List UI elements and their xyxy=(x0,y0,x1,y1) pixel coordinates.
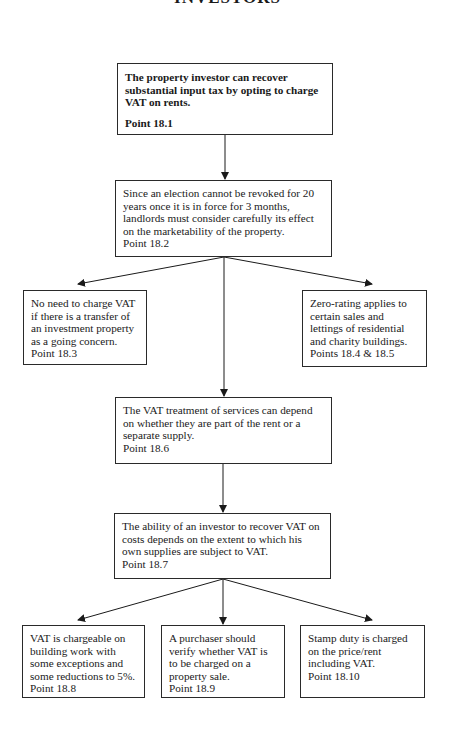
node-n1: The property investor can recover substa… xyxy=(117,63,333,135)
arrow-n2-n4 xyxy=(224,257,372,284)
node-text: No need to charge VAT if there is a tran… xyxy=(31,297,139,347)
node-ref: Point 18.9 xyxy=(169,682,277,695)
node-n4: Zero-rating applies to certain sales and… xyxy=(302,290,427,367)
node-ref: Point 18.10 xyxy=(308,670,417,683)
node-n3: No need to charge VAT if there is a tran… xyxy=(23,290,147,365)
node-n8: A purchaser should verify whether VAT is… xyxy=(161,625,285,698)
arrow-n6-n9 xyxy=(223,579,372,620)
node-n7: VAT is chargeable on building work with … xyxy=(22,625,145,698)
node-ref: Point 18.3 xyxy=(31,347,139,360)
node-ref: Point 18.8 xyxy=(30,682,137,695)
node-text: The VAT treatment of services can depend… xyxy=(123,404,324,442)
node-n5: The VAT treatment of services can depend… xyxy=(115,397,332,464)
node-n9: Stamp duty is charged on the price/rent … xyxy=(300,625,425,698)
node-ref: Point 18.7 xyxy=(122,558,323,571)
node-text: Since an election cannot be revoked for … xyxy=(123,187,324,237)
node-text: A purchaser should verify whether VAT is… xyxy=(169,632,277,682)
node-ref: Point 18.1 xyxy=(125,117,325,130)
node-text: The ability of an investor to recover VA… xyxy=(122,520,323,558)
node-text: VAT is chargeable on building work with … xyxy=(30,632,137,682)
node-text: Stamp duty is charged on the price/rent … xyxy=(308,632,417,670)
node-text: The property investor can recover substa… xyxy=(125,71,325,109)
arrow-n6-n7 xyxy=(78,579,223,620)
node-ref: Point 18.6 xyxy=(123,442,324,455)
node-n2: Since an election cannot be revoked for … xyxy=(115,180,332,257)
node-ref: Points 18.4 & 18.5 xyxy=(310,347,419,360)
node-ref: Point 18.2 xyxy=(123,237,324,250)
node-n6: The ability of an investor to recover VA… xyxy=(114,513,331,579)
arrow-n2-n3 xyxy=(78,257,224,284)
node-text: Zero-rating applies to certain sales and… xyxy=(310,297,419,347)
